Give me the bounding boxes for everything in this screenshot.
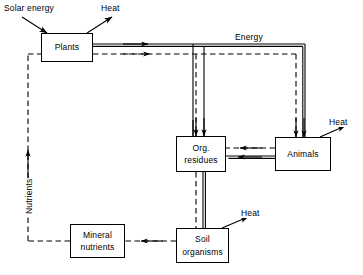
node-soil-organisms-label-2: organisms [182, 246, 223, 258]
node-org-residues-label-1: Org. [192, 142, 209, 154]
label-energy: Energy [233, 32, 265, 42]
node-soil-organisms[interactable]: Soil organisms [176, 228, 229, 263]
flow-animals-to-heat [320, 126, 345, 137]
label-heat-soil: Heat [239, 208, 262, 218]
flow-soil-to-heat [222, 217, 248, 228]
flow-org-residues-to-soil [196, 172, 205, 228]
label-heat-plants: Heat [99, 3, 122, 13]
node-mineral-nutrients[interactable]: Mineral nutrients [70, 224, 125, 258]
label-solar-energy: Solar energy [2, 3, 56, 13]
node-animals[interactable]: Animals [275, 137, 331, 171]
node-plants[interactable]: Plants [41, 33, 93, 62]
node-mineral-nutrients-label-2: nutrients [81, 241, 115, 253]
node-soil-organisms-label-1: Soil [195, 233, 210, 245]
label-nutrients: Nutrients [24, 178, 34, 215]
flow-mineral-nutrients-to-plants [28, 54, 70, 241]
flow-plants-to-heat [87, 17, 112, 33]
label-heat-animals: Heat [327, 117, 350, 127]
node-plants-label-1: Plants [55, 41, 80, 53]
ecosystem-flow-diagram: Plants Org. residues Animals Mineral nut… [0, 0, 363, 275]
flow-solar-to-plants [22, 17, 47, 33]
node-mineral-nutrients-label-1: Mineral [83, 229, 112, 241]
node-org-residues[interactable]: Org. residues [176, 136, 226, 172]
flow-animals-to-org-residues-energy [226, 156, 275, 158]
flow-plants-energy-bus [93, 44, 305, 137]
flow-plants-nutrient-bus [93, 54, 296, 137]
flow-into-org-residues-arrowheads [193, 118, 204, 136]
node-animals-label-1: Animals [287, 148, 318, 160]
node-org-residues-label-2: residues [184, 154, 217, 166]
